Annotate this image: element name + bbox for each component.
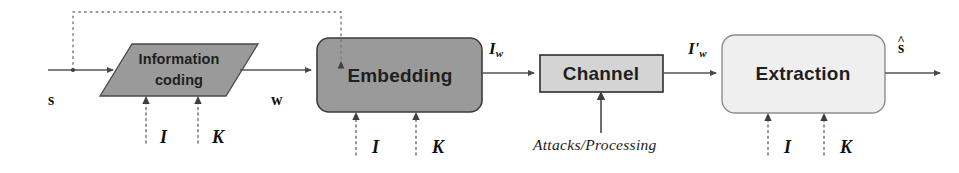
signal-label-attacked-image-main: I' xyxy=(688,39,699,58)
param-label-embedding-K: K xyxy=(432,138,444,156)
param-arrowhead-information-coding-K xyxy=(194,96,201,104)
signal-label-s-hat-output: ^s xyxy=(898,40,904,56)
block-label-extraction: Extraction xyxy=(756,64,851,83)
param-label-extraction-I: I xyxy=(784,138,791,156)
block-label-information-coding-line1: Information xyxy=(139,51,220,67)
param-arrowhead-embedding-K xyxy=(412,112,419,120)
dotted-feedback-source-dot xyxy=(71,68,75,72)
annotation-attacks-processing: Attacks/Processing xyxy=(533,137,657,153)
signal-label-watermarked-image: Iw xyxy=(489,40,503,59)
block-label-information-coding-line2: coding xyxy=(155,72,203,88)
block-label-embedding: Embedding xyxy=(347,66,452,85)
param-arrowhead-information-coding-I xyxy=(142,96,149,104)
signal-label-attacked-image-subscript: w xyxy=(699,47,706,59)
s-hat-caret: ^ xyxy=(897,33,905,46)
signal-label-watermarked-image-main: I xyxy=(489,39,496,58)
signal-label-w: w xyxy=(271,92,283,108)
signal-label-s-input: s xyxy=(48,92,54,108)
block-label-information-coding: Information coding xyxy=(139,49,220,91)
signal-label-watermarked-image-subscript: w xyxy=(496,47,503,59)
param-label-extraction-K: K xyxy=(840,138,852,156)
param-label-information-coding-I: I xyxy=(160,128,167,146)
watermarking-block-diagram: Information coding Embedding Channel Ext… xyxy=(0,0,959,173)
signal-label-attacked-image: I'w xyxy=(688,40,707,59)
param-arrowhead-extraction-I xyxy=(764,113,771,121)
param-arrowhead-extraction-K xyxy=(820,113,827,121)
param-label-information-coding-K: K xyxy=(212,128,224,146)
param-arrowhead-embedding-I xyxy=(352,112,359,120)
param-label-embedding-I: I xyxy=(372,138,379,156)
block-label-channel: Channel xyxy=(563,64,639,83)
